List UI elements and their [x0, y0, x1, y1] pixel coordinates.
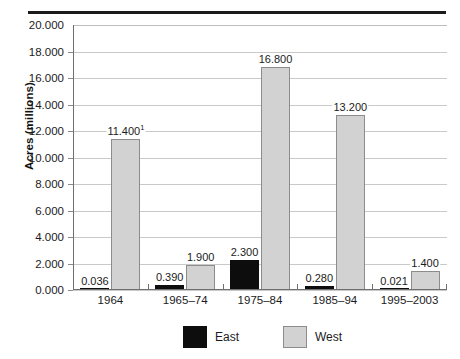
bar-west-1995-2003 [411, 271, 440, 290]
gridline [73, 25, 447, 26]
bar-west-1964 [111, 139, 140, 290]
gridline [73, 52, 447, 53]
bar-label-east: 2.300 [230, 246, 260, 258]
y-axis-tick-label: 12.000 [29, 125, 64, 137]
bar-label-east: 0.390 [155, 271, 185, 283]
y-axis-tick-label: 4.000 [35, 231, 64, 243]
legend-item-east[interactable]: East [183, 326, 239, 348]
x-axis-label-1995-2003: 1995–2003 [381, 294, 439, 306]
bar-west-1965-74 [186, 265, 215, 290]
gridline [73, 290, 447, 291]
gridline [73, 78, 447, 79]
bar-label-west: 1.900 [186, 251, 216, 263]
y-axis-tick-label: 18.000 [29, 46, 64, 58]
bar-east-1975-84 [230, 260, 259, 290]
chart-legend: EastWest [0, 326, 460, 352]
y-axis-tick-label: 6.000 [35, 205, 64, 217]
legend-label: West [315, 330, 342, 344]
y-axis-tick-label: 14.000 [29, 99, 64, 111]
y-axis-tick-label: 16.000 [29, 72, 64, 84]
bar-west-1985-94 [336, 115, 365, 290]
bar-label-west: 16.800 [258, 53, 294, 65]
y-axis-tick-label: 2.000 [35, 258, 64, 270]
chart-figure: Acres (millions) 0.0002.0004.0006.0008.0… [0, 0, 460, 359]
x-axis-label-1975-84: 1975–84 [238, 294, 283, 306]
bar-label-west: 11.4001 [106, 125, 145, 137]
legend-label: East [215, 330, 239, 344]
gray-square-swatch [283, 326, 307, 348]
bar-west-1975-84 [261, 67, 290, 290]
x-axis-label-1985-94: 1985–94 [312, 294, 357, 306]
bar-label-east: 0.036 [80, 275, 110, 287]
top-rule-divider [28, 11, 446, 14]
x-axis-label-1964: 1964 [98, 294, 124, 306]
black-square-swatch [183, 326, 207, 348]
y-axis-tick-label: 0.000 [35, 284, 64, 296]
legend-item-west[interactable]: West [283, 326, 342, 348]
x-axis-label-1965-74: 1965–74 [163, 294, 208, 306]
bar-label-east: 0.021 [379, 275, 409, 287]
bar-label-east: 0.280 [305, 272, 335, 284]
x-axis-labels: 19641965–741975–841985–941995–2003 [73, 294, 447, 312]
y-axis-tick-label: 20.000 [29, 19, 64, 31]
x-axis-line [73, 289, 447, 290]
gridline [73, 105, 447, 106]
bar-label-west: 13.200 [332, 101, 368, 113]
y-axis-tick-label: 8.000 [35, 178, 64, 190]
y-axis-tick-label: 10.000 [29, 152, 64, 164]
bar-label-west: 1.400 [410, 257, 440, 269]
plot-area: 0.03611.40010.3901.9002.30016.8000.28013… [73, 25, 447, 290]
y-axis-ticks: 0.0002.0004.0006.0008.00010.00012.00014.… [0, 25, 73, 290]
y-axis-line [73, 25, 74, 290]
